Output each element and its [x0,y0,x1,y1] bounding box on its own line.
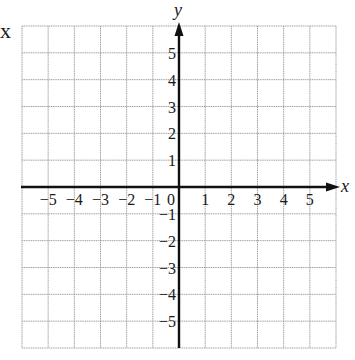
stray-x-label: x [0,18,11,43]
y-tick-label: 2 [168,125,176,142]
x-tick-label: −2 [118,191,135,208]
axes [21,22,340,348]
x-tick-label: −3 [92,191,109,208]
x-tick-label: −4 [66,191,83,208]
x-tick-label: 2 [227,191,235,208]
x-axis-label: x [340,176,349,196]
x-tick-label: 4 [280,191,288,208]
y-tick-label: 1 [168,152,176,169]
y-tick-label: −2 [159,233,176,250]
x-tick-label: 1 [201,191,209,208]
x-tick-label: −5 [40,191,57,208]
y-tick-label: −4 [159,286,176,303]
y-tick-label: 3 [168,99,176,116]
coordinate-grid: −5−4−3−2−101234554321−1−2−3−4−5 x y x [0,0,355,360]
y-tick-label: −1 [159,206,176,223]
y-axis-arrow-icon [175,22,184,36]
y-tick-label: 5 [168,45,176,62]
x-tick-label: 5 [306,191,314,208]
y-tick-label: −5 [159,313,176,330]
y-axis-label: y [172,0,182,20]
x-axis-arrow-icon [326,183,340,192]
x-tick-label: 3 [254,191,262,208]
y-tick-label: −3 [159,260,176,277]
y-tick-label: 4 [168,72,176,89]
